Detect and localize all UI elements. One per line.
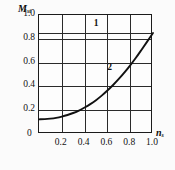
y-tick-label: 1.0 — [23, 9, 35, 19]
y-tick-label: 0.6 — [23, 57, 35, 67]
curve-annotation-2: 2 — [107, 63, 112, 73]
plot-area: 1 2 — [38, 14, 152, 133]
series-line-2 — [39, 33, 153, 119]
y-tick-label: 0.2 — [23, 104, 35, 114]
chart-figure: Mst ns 0 0.2 0.4 0.6 0.8 1.0 0.2 0.4 0.6… — [0, 0, 175, 170]
x-tick-label: 0.6 — [100, 138, 112, 148]
x-tick-label: 0.4 — [78, 138, 90, 148]
x-axis-title-subscript: s — [162, 132, 164, 138]
x-tick-label: 1.0 — [146, 138, 158, 148]
curve-annotation-1: 1 — [94, 19, 99, 29]
y-tick-label: 0.8 — [23, 33, 35, 43]
origin-tick-label: 0 — [27, 129, 32, 139]
x-tick-label: 0.8 — [123, 138, 135, 148]
y-tick-label: 0.4 — [23, 81, 35, 91]
x-tick-label: 0.2 — [55, 138, 67, 148]
data-curve-svg — [39, 15, 153, 134]
